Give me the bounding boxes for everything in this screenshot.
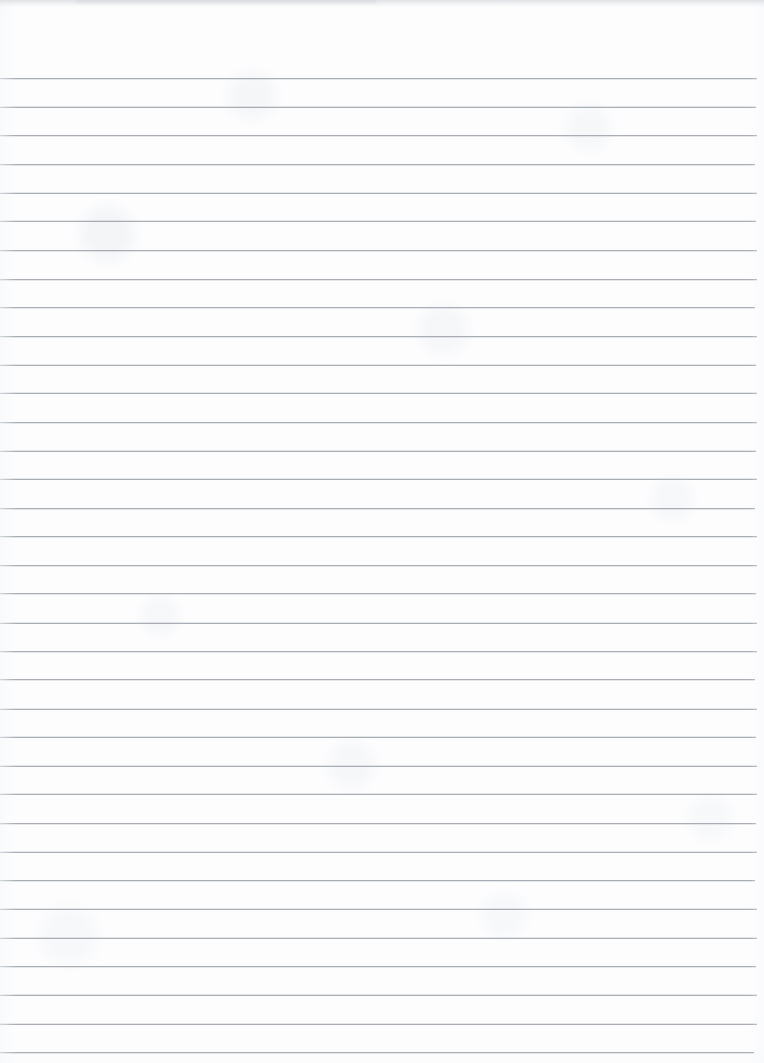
rule-line	[0, 107, 756, 108]
rule-line	[0, 78, 757, 79]
rule-line	[0, 451, 756, 452]
rule-line	[0, 1024, 757, 1025]
rule-line	[0, 709, 757, 710]
rule-line	[0, 794, 757, 795]
rule-line	[0, 307, 755, 308]
rule-line	[0, 938, 757, 939]
scanned-page	[0, 0, 764, 1063]
rule-line	[0, 1052, 754, 1053]
rule-line	[0, 737, 756, 738]
rule-line	[0, 995, 757, 996]
rule-line	[0, 479, 757, 480]
rule-line	[0, 966, 756, 967]
rule-line	[0, 221, 756, 222]
rule-line	[0, 336, 757, 337]
rule-line	[0, 823, 756, 824]
rule-line	[0, 250, 757, 251]
rule-line	[0, 593, 756, 594]
rule-line	[0, 365, 756, 366]
rule-line	[0, 565, 757, 566]
rule-line	[0, 852, 757, 853]
rule-line	[0, 766, 757, 767]
rule-line	[0, 909, 757, 910]
rule-line	[0, 679, 755, 680]
rule-line	[0, 279, 757, 280]
rule-line	[0, 164, 755, 165]
rule-line	[0, 623, 757, 624]
rule-line	[0, 422, 757, 423]
ruled-lines-group	[0, 0, 764, 1063]
rule-line	[0, 393, 757, 394]
rule-line	[0, 880, 755, 881]
rule-line	[0, 135, 757, 136]
rule-line	[0, 536, 757, 537]
rule-line	[0, 651, 757, 652]
rule-line	[0, 508, 755, 509]
rule-line	[0, 193, 757, 194]
